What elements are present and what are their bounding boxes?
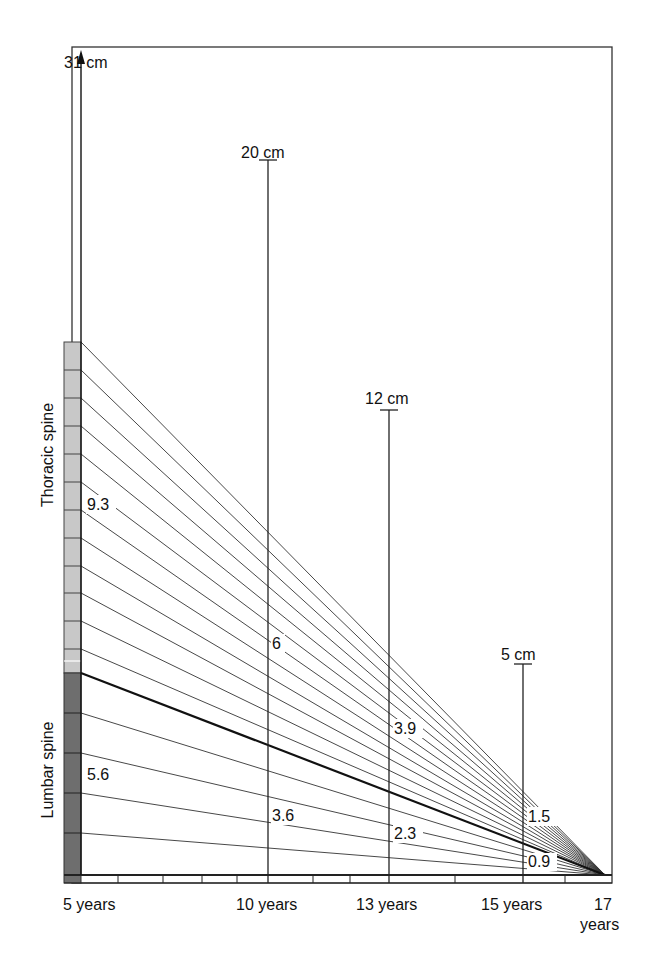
- x-label-10-years: 10 years: [236, 896, 297, 913]
- thoracic-spine-label: Thoracic spine: [39, 403, 56, 507]
- height-marker-13-years: [380, 410, 398, 883]
- x-label-15-years: 15 years: [481, 896, 542, 913]
- spine-column: [64, 342, 81, 883]
- lumbar-bar: [64, 673, 81, 883]
- height-marker-10-years: [259, 160, 277, 883]
- lumbar-spine-label: Lumbar spine: [39, 721, 56, 818]
- lumbar-value-15-years: 0.9: [528, 853, 550, 870]
- thoracic-bar: [64, 342, 81, 673]
- spinal-growth-diagram: 31 cm 20 cm 12 cm 5 cm 9.3 6 3.9 1.5 5.6…: [0, 0, 654, 966]
- height-label-13-years: 12 cm: [365, 390, 409, 407]
- lumbar-value-13-years: 2.3: [394, 825, 416, 842]
- thoracic-value-13-years: 3.9: [394, 720, 416, 737]
- thoracic-value-10-years: 6: [272, 635, 281, 652]
- value-labels: 9.3 6 3.9 1.5 5.6 3.6 2.3 0.9: [86, 495, 557, 871]
- height-label-5-years: 31 cm: [64, 54, 108, 71]
- x-axis-labels: 5 years 10 years 13 years 15 years 17 ye…: [63, 896, 619, 933]
- height-label-10-years: 20 cm: [241, 144, 285, 161]
- age-baseline: [64, 875, 612, 883]
- lumbar-value-10-years: 3.6: [272, 807, 294, 824]
- height-label-15-years: 5 cm: [501, 646, 536, 663]
- x-label-17-years: years: [580, 916, 619, 933]
- height-marker-15-years: [514, 664, 532, 883]
- diagram-frame: [72, 47, 612, 883]
- thoracic-value-15-years: 1.5: [528, 808, 550, 825]
- x-label-13-years: 13 years: [356, 896, 417, 913]
- x-label-5-years: 5 years: [63, 896, 115, 913]
- thoracic-value-5-years: 9.3: [87, 496, 109, 513]
- x-label-17: 17: [594, 896, 612, 913]
- lumbar-value-5-years: 5.6: [87, 766, 109, 783]
- growth-fan-lines: [81, 342, 605, 875]
- thoracolumbar-junction-line: [81, 673, 605, 875]
